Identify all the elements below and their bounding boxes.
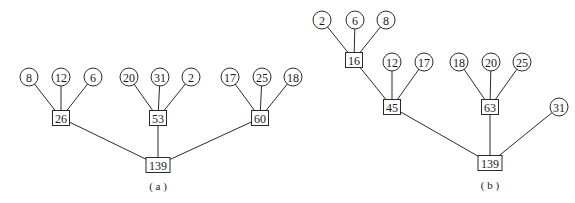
node-label: 12 — [55, 71, 67, 85]
internal-node-16: 16 — [346, 53, 363, 68]
edge-26-to-139 — [61, 118, 158, 165]
leaf-node-8: 8 — [20, 68, 38, 86]
edge-45-to-139 — [392, 107, 490, 163]
internal-node-53: 53 — [150, 111, 167, 126]
leaf-node-17: 17 — [415, 53, 433, 71]
node-label: 20 — [485, 56, 497, 70]
node-label: 25 — [516, 56, 528, 70]
node-label: 63 — [484, 101, 496, 115]
leaf-node-31: 31 — [550, 98, 568, 116]
leaf-node-25: 25 — [253, 68, 271, 86]
diagram-b-nodes: 268161217451820256331139 — [313, 11, 568, 171]
node-label: 12 — [386, 56, 398, 70]
leaf-node-2: 2 — [313, 11, 331, 29]
node-label: 18 — [453, 56, 465, 70]
leaf-node-31: 31 — [151, 68, 169, 86]
node-label: 8 — [26, 71, 32, 85]
leaf-node-6: 6 — [84, 68, 102, 86]
caption-a: ( a ) — [149, 180, 167, 193]
edge-31-to-139 — [490, 107, 559, 163]
huffman-tree-figure: 812620312172518265360139 ( a ) 268161217… — [0, 0, 575, 203]
leaf-node-12: 12 — [383, 53, 401, 71]
edge-60-to-139 — [158, 118, 260, 165]
internal-node-139: 139 — [478, 156, 502, 171]
diagram-a: 812620312172518265360139 ( a ) — [20, 68, 302, 193]
node-label: 17 — [224, 71, 236, 85]
leaf-node-25: 25 — [513, 53, 531, 71]
internal-node-63: 63 — [482, 100, 499, 115]
leaf-node-12: 12 — [52, 68, 70, 86]
node-label: 139 — [149, 159, 167, 173]
leaf-node-20: 20 — [482, 53, 500, 71]
node-label: 31 — [154, 71, 166, 85]
node-label: 8 — [383, 14, 389, 28]
node-label: 2 — [319, 14, 325, 28]
leaf-node-18: 18 — [450, 53, 468, 71]
diagram-b: 268161217451820256331139 ( b ) — [313, 11, 568, 192]
caption-b: ( b ) — [481, 179, 500, 192]
node-label: 6 — [90, 71, 96, 85]
leaf-node-2: 2 — [182, 68, 200, 86]
node-label: 53 — [152, 112, 164, 126]
diagram-a-nodes: 812620312172518265360139 — [20, 68, 302, 173]
diagram-b-edges — [322, 20, 559, 163]
node-label: 20 — [123, 71, 135, 85]
node-label: 2 — [188, 71, 194, 85]
node-label: 60 — [254, 112, 266, 126]
node-label: 26 — [55, 112, 67, 126]
node-label: 25 — [256, 71, 268, 85]
node-label: 139 — [481, 157, 499, 171]
node-label: 16 — [348, 54, 360, 68]
internal-node-60: 60 — [252, 111, 269, 126]
leaf-node-18: 18 — [284, 68, 302, 86]
leaf-node-8: 8 — [377, 11, 395, 29]
node-label: 31 — [553, 101, 565, 115]
node-label: 18 — [287, 71, 299, 85]
leaf-node-6: 6 — [346, 11, 364, 29]
node-label: 45 — [386, 101, 398, 115]
internal-node-139: 139 — [146, 158, 170, 173]
leaf-node-20: 20 — [120, 68, 138, 86]
leaf-node-17: 17 — [221, 68, 239, 86]
internal-node-45: 45 — [384, 100, 401, 115]
node-label: 6 — [352, 14, 358, 28]
internal-node-26: 26 — [53, 111, 70, 126]
node-label: 17 — [418, 56, 430, 70]
